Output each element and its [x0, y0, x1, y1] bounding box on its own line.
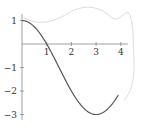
- line-chart: 12341−1−2−3: [0, 0, 142, 131]
- x-tick-label: 4: [118, 47, 124, 57]
- y-tick-label: 1: [11, 16, 17, 26]
- chart-root: 12341−1−2−3: [0, 0, 142, 131]
- y-tick-label: −1: [4, 63, 17, 73]
- x-tick-label: 2: [69, 47, 75, 57]
- function-curve: [22, 21, 118, 115]
- y-tick-label: −3: [4, 110, 18, 120]
- y-tick-label: −2: [4, 86, 17, 96]
- x-tick-label: 3: [93, 47, 99, 57]
